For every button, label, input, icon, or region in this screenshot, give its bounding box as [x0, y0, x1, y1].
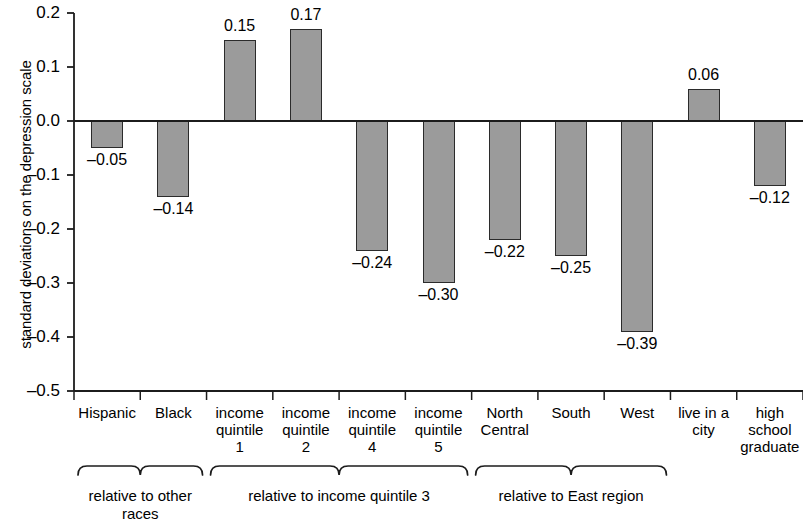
category-label-line: 5	[399, 438, 479, 455]
bar-value-label: 0.06	[664, 67, 744, 83]
category-label-line: graduate	[730, 438, 803, 455]
y-axis-tick-label: –0.4	[14, 328, 60, 345]
bar	[224, 40, 256, 121]
bar	[688, 89, 720, 121]
group-brace	[78, 466, 203, 475]
bar-value-label: –0.14	[133, 201, 213, 217]
bar	[356, 121, 388, 251]
bar-value-label: 0.17	[266, 7, 346, 23]
bar	[157, 121, 189, 197]
group-brace	[211, 466, 468, 475]
bar-chart: standard deviations on the depression sc…	[0, 0, 803, 531]
x-axis-category-label: highschoolgraduate	[730, 404, 803, 455]
category-label-line: high	[730, 404, 803, 421]
group-brace	[476, 466, 667, 475]
bar-value-label: –0.25	[531, 260, 611, 276]
bar	[754, 121, 786, 186]
category-label-line: Central	[465, 421, 545, 438]
bar	[91, 121, 123, 148]
y-axis-tick-label: 0.2	[14, 4, 60, 21]
bar	[290, 29, 322, 121]
y-axis-tick-label: 0.0	[14, 112, 60, 129]
bar	[621, 121, 653, 332]
group-label-line: relative to income quintile 3	[209, 487, 469, 505]
bar-value-label: –0.24	[332, 255, 412, 271]
bar-value-label: –0.39	[597, 336, 677, 352]
y-axis-tick-label: –0.3	[14, 274, 60, 291]
y-axis-tick-label: –0.1	[14, 166, 60, 183]
bar-value-label: –0.22	[465, 244, 545, 260]
group-label: relative to East region	[441, 487, 701, 505]
y-axis-tick-label: 0.1	[14, 58, 60, 75]
bar-value-label: –0.12	[730, 190, 803, 206]
group-label-line: races	[10, 505, 270, 523]
y-axis-tick-label: –0.2	[14, 220, 60, 237]
group-label: relative to income quintile 3	[209, 487, 469, 505]
bar	[423, 121, 455, 283]
y-axis-tick-label: –0.5	[14, 382, 60, 399]
bar	[555, 121, 587, 256]
category-label-line: school	[730, 421, 803, 438]
bar-value-label: –0.30	[399, 287, 479, 303]
bar-value-label: –0.05	[67, 152, 147, 168]
bar	[489, 121, 521, 240]
group-label-line: relative to East region	[441, 487, 701, 505]
